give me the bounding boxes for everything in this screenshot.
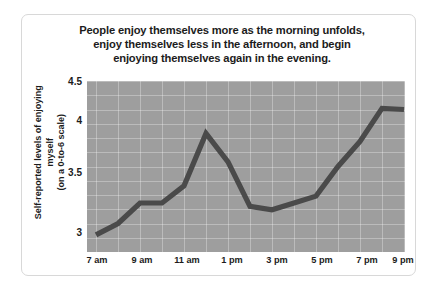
y-tick-label-4.5: 4.5 [44, 76, 82, 87]
data-series-line [96, 108, 404, 235]
y-tick-label-3.5: 3.5 [44, 167, 82, 178]
y-axis-label-line-2: (on a 0-to-6 scale) [56, 77, 68, 227]
gridline-horizontal [87, 252, 405, 253]
y-axis-label-line-1: Self-reported levels of enjoying myself [33, 85, 55, 219]
chart-title-line-2: enjoy themselves less in the afternoon, … [62, 37, 382, 51]
chart-title: People enjoy themselves more as the morn… [62, 23, 382, 66]
y-axis-label: Self-reported levels of enjoying myself … [33, 77, 68, 227]
x-tick-label-9am: 9 am [119, 255, 165, 265]
chart-title-line-3: enjoying themselves again in the evening… [62, 51, 382, 65]
y-tick-label-3: 3 [44, 227, 82, 238]
x-tick-label-3pm: 3 pm [254, 255, 300, 265]
x-tick-label-1pm: 1 pm [209, 255, 255, 265]
plot-area [87, 81, 405, 252]
x-tick-label-9pm: 9 pm [380, 255, 426, 265]
chart-title-line-1: People enjoy themselves more as the morn… [62, 23, 382, 37]
x-tick-label-5pm: 5 pm [299, 255, 345, 265]
data-line-chart [87, 81, 405, 252]
x-tick-label-11am: 11 am [164, 255, 210, 265]
chart-figure: People enjoy themselves more as the morn… [21, 14, 416, 276]
x-tick-label-7am: 7 am [74, 255, 120, 265]
y-tick-label-4: 4 [44, 115, 82, 126]
